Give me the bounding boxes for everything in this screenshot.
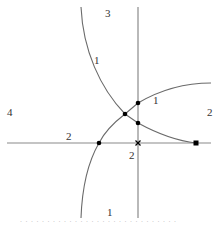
region-label-left: 4 [7, 106, 13, 118]
caption-text: · · · · · · · · · · · · · · · · · · · · … [20, 219, 210, 227]
region-label-right: 2 [207, 106, 213, 118]
left-curve-upper [81, 7, 125, 114]
square-marker [194, 141, 199, 146]
horizontal-line-label: 2 [66, 130, 72, 142]
region-label-top: 3 [105, 7, 111, 19]
left-curve-label: 1 [94, 54, 100, 66]
right-curve-lower [125, 114, 196, 143]
phase-diagram: 3 1 1 4 2 2 2 1 [0, 0, 213, 228]
upper-intersection-marker [136, 101, 141, 106]
vertical-line-label: 2 [129, 149, 135, 161]
triple-point-marker [123, 112, 128, 117]
right-curve-label: 1 [153, 94, 159, 106]
lower-intersection-marker [136, 121, 141, 126]
left-axis-intersection-marker [97, 141, 102, 146]
left-curve-lower [81, 114, 125, 218]
region-label-bottom: 1 [107, 206, 113, 218]
